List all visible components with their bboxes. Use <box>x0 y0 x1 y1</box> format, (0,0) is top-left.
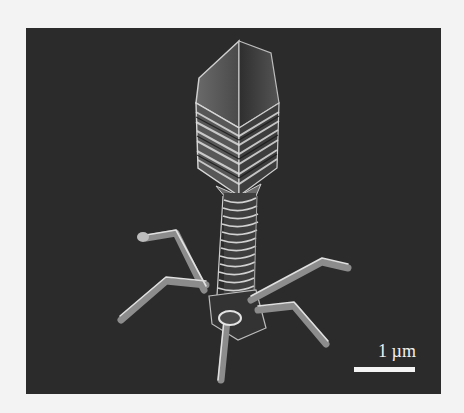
phage-illustration <box>26 28 441 394</box>
micrograph: 1 µm <box>26 28 441 394</box>
capsid-head <box>196 41 279 198</box>
scale-bar <box>354 367 415 372</box>
scale-bar-label: 1 µm <box>362 342 432 360</box>
tail-sheath <box>217 193 258 303</box>
